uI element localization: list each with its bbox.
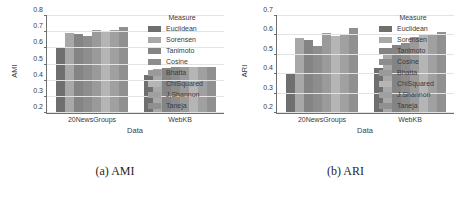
legend-label: Cosine (166, 58, 188, 65)
legend-item: J.Shannon (379, 89, 453, 100)
legend-title: Measure (142, 14, 222, 21)
y-tick-mark (44, 64, 47, 65)
y-tick-mark (274, 15, 277, 16)
legend-item: Sorensen (148, 34, 222, 45)
x-tick-label: WebKB (168, 116, 192, 123)
legend-swatch (379, 92, 392, 98)
y-tick-mark (274, 93, 277, 94)
legend-label: Taneja (397, 102, 418, 109)
y-tick-mark (44, 15, 47, 16)
y-tick-mark (44, 80, 47, 81)
y-tick-mark (44, 96, 47, 97)
legend-item: Sorensen (379, 34, 453, 45)
legend-swatch (148, 92, 161, 98)
gridline: 0.2 (47, 112, 224, 113)
legend-swatch (379, 48, 392, 54)
legend-swatch (148, 81, 161, 87)
legend-item: Cosine (379, 56, 453, 67)
legend-label: ChiSquared (166, 80, 203, 87)
legend-label: Taneja (166, 102, 187, 109)
y-tick-mark (274, 112, 277, 113)
y-tick-label: 0.6 (263, 25, 273, 32)
legend-ami: Measure EuclideanSorensenTanimotoCosineB… (148, 14, 222, 111)
y-tick-mark (44, 47, 47, 48)
x-tick-label: WebKB (398, 116, 422, 123)
y-tick-label: 0.4 (263, 64, 273, 71)
legend-label: Tanimoto (166, 47, 194, 54)
x-tick-label: 20NewsGroups (298, 116, 346, 123)
legend-label: Euclidean (397, 25, 428, 32)
subfigure-ari: ARI 20NewsGroupsWebKB 0.20.30.40.50.60.7… (230, 0, 461, 197)
legend-swatch (379, 26, 392, 32)
legend-swatch (148, 70, 161, 76)
y-tick-label: 0.5 (33, 54, 43, 61)
legend-label: Sorensen (166, 36, 196, 43)
legend-item: Tanimoto (379, 45, 453, 56)
y-tick-label: 0.3 (33, 86, 43, 93)
legend-item: Taneja (148, 100, 222, 111)
y-tick-label: 0.6 (33, 38, 43, 45)
y-tick-label: 0.7 (33, 22, 43, 29)
legend-swatch (379, 70, 392, 76)
bar (349, 28, 358, 113)
subfigure-caption-ami: (a) AMI (0, 164, 230, 179)
legend-item: ChiSquared (148, 78, 222, 89)
y-tick-label: 0.2 (33, 103, 43, 110)
legend-label: Sorensen (397, 36, 427, 43)
legend-item: Tanimoto (148, 45, 222, 56)
legend-label: Euclidean (166, 25, 197, 32)
legend-item: Cosine (148, 56, 222, 67)
legend-label: J.Shannon (166, 91, 199, 98)
bar (92, 30, 101, 113)
y-tick-label: 0.2 (263, 103, 273, 110)
subfigure-caption-ari: (b) ARI (230, 164, 461, 179)
y-tick-mark (44, 112, 47, 113)
legend-item: J.Shannon (148, 89, 222, 100)
bar-group: 20NewsGroups (286, 16, 358, 113)
legend-swatch (148, 103, 161, 109)
bar (101, 32, 110, 113)
subfigure-ami: AMI 20NewsGroupsWebKB 0.20.30.40.50.60.7… (0, 0, 230, 197)
legend-swatch (148, 37, 161, 43)
y-tick-mark (274, 34, 277, 35)
bar (110, 30, 119, 113)
x-axis-label-ari: Data (276, 126, 454, 135)
bar (313, 46, 322, 114)
legend-label: Bhatta (397, 69, 417, 76)
legend-ari: Measure EuclideanSorensenTanimotoCosineB… (379, 14, 453, 111)
bar (119, 27, 128, 113)
y-tick-label: 0.8 (33, 6, 43, 13)
y-axis-label-ami: AMI (10, 64, 19, 77)
legend-label: Cosine (397, 58, 419, 65)
legend-label: J.Shannon (397, 91, 430, 98)
gridline: 0.2 (277, 112, 454, 113)
y-tick-label: 0.7 (263, 6, 273, 13)
legend-swatch (148, 48, 161, 54)
y-tick-label: 0.5 (263, 44, 273, 51)
legend-item: Taneja (379, 100, 453, 111)
legend-swatch (379, 59, 392, 65)
legend-item: Bhatta (148, 67, 222, 78)
bar (304, 40, 313, 113)
x-axis-label-ami: Data (46, 126, 224, 135)
legend-title: Measure (373, 14, 453, 21)
legend-item: Euclidean (379, 23, 453, 34)
bar (65, 33, 74, 113)
y-tick-mark (274, 73, 277, 74)
legend-swatch (379, 103, 392, 109)
legend-item: ChiSquared (379, 78, 453, 89)
legend-item: Euclidean (148, 23, 222, 34)
legend-swatch (379, 37, 392, 43)
y-axis-label-ari: ARI (240, 65, 249, 78)
figure-row: AMI 20NewsGroupsWebKB 0.20.30.40.50.60.7… (0, 0, 461, 197)
y-tick-mark (274, 54, 277, 55)
legend-label: Tanimoto (397, 47, 425, 54)
legend-swatch (148, 26, 161, 32)
bar (331, 36, 340, 113)
legend-label: Bhatta (166, 69, 186, 76)
legend-swatch (148, 59, 161, 65)
bar (74, 34, 83, 113)
legend-swatch (379, 81, 392, 87)
y-tick-label: 0.4 (33, 70, 43, 77)
y-tick-label: 0.3 (263, 83, 273, 90)
